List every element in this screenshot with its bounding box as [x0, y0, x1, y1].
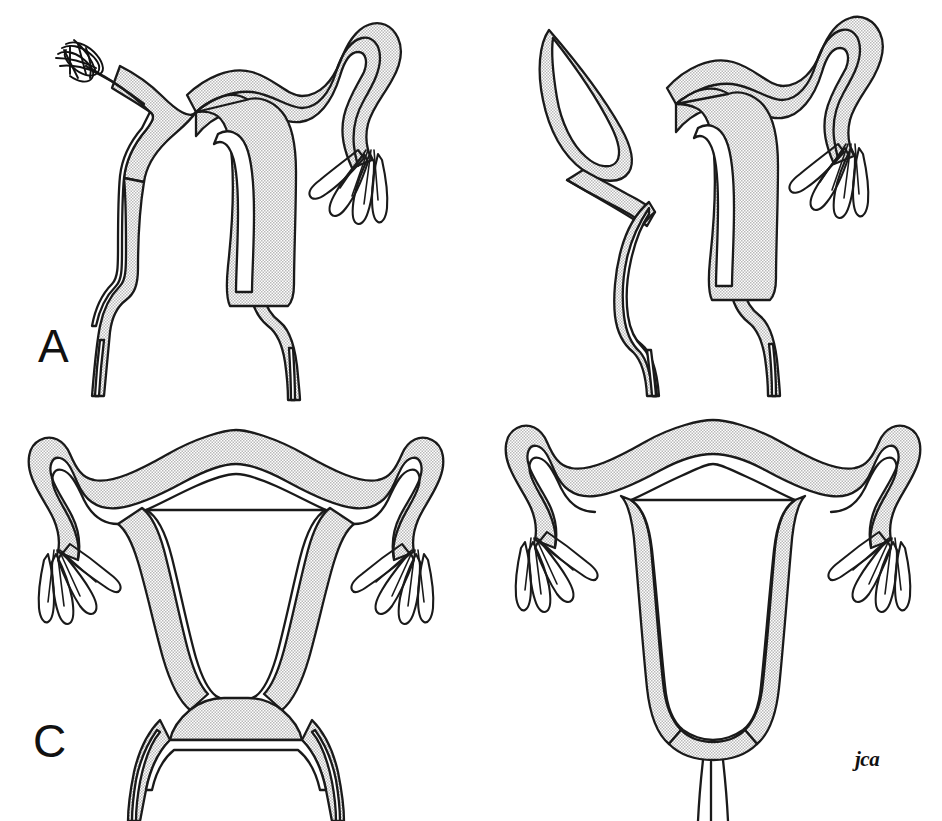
panel-a-label: A	[38, 323, 69, 369]
panel-b-illustration	[471, 0, 942, 410]
artist-signature: jca	[855, 747, 879, 772]
panel-c-label: C	[33, 718, 66, 764]
panel-a-illustration	[0, 0, 471, 410]
figure-canvas: A	[0, 0, 942, 821]
fimbriae-right	[789, 144, 868, 218]
panel-a: A	[0, 0, 471, 410]
panel-c-illustration	[0, 410, 471, 821]
panel-c: C	[0, 410, 471, 821]
panel-b: B	[471, 0, 942, 410]
